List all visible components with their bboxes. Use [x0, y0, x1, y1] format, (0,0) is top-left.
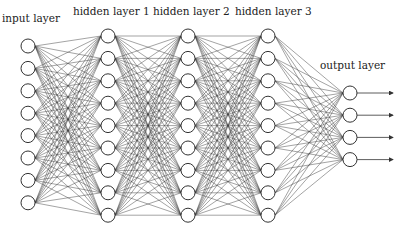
- output-neuron: [343, 130, 357, 144]
- connection-edge: [275, 137, 343, 215]
- hidden-layer-2-label: hidden layer 2: [153, 6, 230, 17]
- hidden-3-neuron: [261, 51, 275, 65]
- hidden-1-neuron: [101, 163, 115, 177]
- hidden-3-neuron: [261, 141, 275, 155]
- output-layer-label: output layer: [320, 60, 385, 71]
- output-arrows: [357, 93, 393, 160]
- connection-edge: [275, 93, 343, 170]
- connection-edge: [35, 36, 101, 113]
- input-layer-label: input layer: [2, 13, 60, 24]
- input-neuron: [21, 196, 35, 210]
- input-neuron: [21, 106, 35, 120]
- hidden-2-neuron: [181, 186, 195, 200]
- hidden-3-neuron: [261, 163, 275, 177]
- hidden-2-neuron: [181, 141, 195, 155]
- hidden-3-neuron: [261, 208, 275, 222]
- connection-edge: [35, 126, 101, 203]
- hidden-1-neuron: [101, 186, 115, 200]
- input-neuron: [21, 61, 35, 75]
- hidden-layer-1-label: hidden layer 1: [73, 6, 150, 17]
- neural-network-diagram: input layer hidden layer 1 hidden layer …: [0, 0, 396, 234]
- hidden-layer-3-label: hidden layer 3: [235, 6, 312, 17]
- hidden-2-neuron: [181, 163, 195, 177]
- hidden-1-neuron: [101, 208, 115, 222]
- hidden-3-neuron: [261, 96, 275, 110]
- hidden-2-neuron: [181, 119, 195, 133]
- hidden-2-neuron: [181, 208, 195, 222]
- hidden-3-neuron: [261, 74, 275, 88]
- output-neuron: [343, 108, 357, 122]
- hidden-1-neuron: [101, 74, 115, 88]
- connection-edge: [275, 81, 343, 93]
- connection-edge: [275, 160, 343, 216]
- network-graph: [0, 0, 396, 234]
- hidden-2-neuron: [181, 74, 195, 88]
- input-neuron: [21, 84, 35, 98]
- hidden-1-neuron: [101, 51, 115, 65]
- input-neuron: [21, 39, 35, 53]
- hidden-1-neuron: [101, 141, 115, 155]
- hidden-1-neuron: [101, 96, 115, 110]
- hidden-2-neuron: [181, 29, 195, 43]
- hidden-1-neuron: [101, 119, 115, 133]
- hidden-2-neuron: [181, 51, 195, 65]
- input-neuron: [21, 151, 35, 165]
- input-neuron: [21, 173, 35, 187]
- output-neuron: [343, 86, 357, 100]
- hidden-1-neuron: [101, 29, 115, 43]
- output-neuron: [343, 153, 357, 167]
- hidden-3-neuron: [261, 186, 275, 200]
- connection-edge: [35, 203, 101, 215]
- hidden-3-neuron: [261, 29, 275, 43]
- hidden-2-neuron: [181, 96, 195, 110]
- hidden-3-neuron: [261, 119, 275, 133]
- input-neuron: [21, 129, 35, 143]
